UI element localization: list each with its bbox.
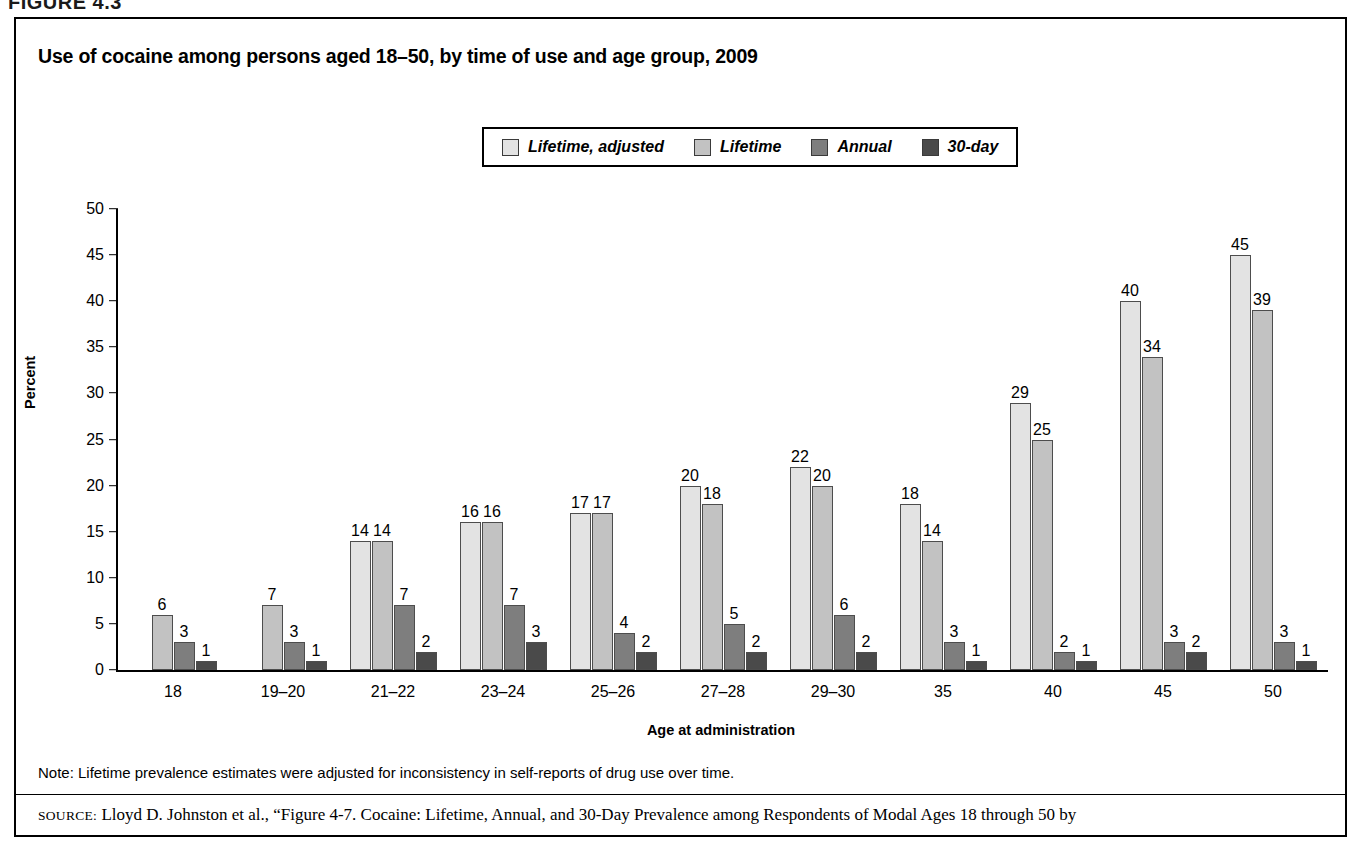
bar[interactable]: 3 <box>174 642 195 670</box>
x-axis-category-label: 23–24 <box>448 683 558 701</box>
bar-value-label: 29 <box>1011 385 1029 401</box>
bar-value-label: 5 <box>730 606 739 622</box>
bar[interactable]: 2 <box>1186 652 1207 670</box>
bar[interactable]: 2 <box>746 652 767 670</box>
bar[interactable]: 20 <box>680 486 701 670</box>
bar[interactable]: 2 <box>636 652 657 670</box>
chart-note: Note: Lifetime prevalence estimates were… <box>38 764 734 781</box>
bar[interactable]: 6 <box>152 615 173 670</box>
bar-value-label: 2 <box>422 634 431 650</box>
bar[interactable]: 3 <box>944 642 965 670</box>
bar[interactable]: 14 <box>922 541 943 670</box>
source-prefix: SOURCE: <box>38 808 97 823</box>
bar[interactable]: 14 <box>350 541 371 670</box>
bar-group: 40343245 <box>1108 209 1218 670</box>
bar-group: 16167323–24 <box>448 209 558 670</box>
bar-value-label: 25 <box>1033 422 1051 438</box>
bar-value-label: 2 <box>1060 634 1069 650</box>
bar-group: 17174225–26 <box>558 209 668 670</box>
y-axis-tick-label: 30 <box>86 384 104 402</box>
bar[interactable]: 14 <box>372 541 393 670</box>
x-axis-title: Age at administration <box>116 722 1326 738</box>
bar[interactable]: 29 <box>1010 403 1031 670</box>
y-axis-tick-label: 0 <box>95 661 104 679</box>
y-axis-tick <box>109 208 118 209</box>
bar-value-label: 14 <box>923 523 941 539</box>
y-axis-tick <box>109 669 118 670</box>
bar-value-label: 34 <box>1143 339 1161 355</box>
bar[interactable]: 1 <box>966 661 987 670</box>
y-axis-tick-label: 20 <box>86 477 104 495</box>
chart-source: SOURCE: Lloyd D. Johnston et al., “Figur… <box>38 805 1076 825</box>
bar-value-label: 17 <box>571 495 589 511</box>
bar[interactable]: 2 <box>1054 652 1075 670</box>
bar[interactable]: 18 <box>900 504 921 670</box>
bar-value-label: 16 <box>461 504 479 520</box>
y-axis-tick-label: 10 <box>86 569 104 587</box>
y-axis-tick-label: 50 <box>86 200 104 218</box>
bar-value-label: 1 <box>1082 643 1091 659</box>
bar-value-label: 1 <box>1302 643 1311 659</box>
bar-group: 14147221–22 <box>338 209 448 670</box>
bar[interactable]: 1 <box>306 661 327 670</box>
y-axis-tick <box>109 577 118 578</box>
bar[interactable]: 39 <box>1252 310 1273 670</box>
bar[interactable]: 7 <box>504 605 525 670</box>
bar-value-label: 2 <box>642 634 651 650</box>
bar[interactable]: 7 <box>262 605 283 670</box>
bar[interactable]: 16 <box>482 522 503 670</box>
x-axis-category-label: 27–28 <box>668 683 778 701</box>
bar-group: 20185227–28 <box>668 209 778 670</box>
bar-value-label: 2 <box>1192 634 1201 650</box>
source-divider <box>16 794 1345 795</box>
bar-value-label: 14 <box>373 523 391 539</box>
bar[interactable]: 6 <box>834 615 855 670</box>
bar[interactable]: 16 <box>460 522 481 670</box>
y-axis-title: Percent <box>22 356 38 409</box>
bar[interactable]: 2 <box>856 652 877 670</box>
y-axis-tick-label: 15 <box>86 523 104 541</box>
bar[interactable]: 1 <box>196 661 217 670</box>
y-axis-tick <box>109 439 118 440</box>
bar[interactable]: 2 <box>416 652 437 670</box>
bar[interactable]: 7 <box>394 605 415 670</box>
x-axis-category-label: 50 <box>1218 683 1328 701</box>
bar[interactable]: 45 <box>1230 255 1251 670</box>
bar[interactable]: 17 <box>570 513 591 670</box>
y-axis-tick <box>109 300 118 301</box>
bar-value-label: 3 <box>532 624 541 640</box>
bar[interactable]: 3 <box>284 642 305 670</box>
bar[interactable]: 5 <box>724 624 745 670</box>
bar[interactable]: 40 <box>1120 301 1141 670</box>
y-axis-tick-label: 25 <box>86 431 104 449</box>
bar[interactable]: 4 <box>614 633 635 670</box>
bar-value-label: 3 <box>1170 624 1179 640</box>
bar-value-label: 3 <box>290 624 299 640</box>
bar[interactable]: 25 <box>1032 440 1053 671</box>
bar[interactable]: 34 <box>1142 357 1163 670</box>
bar[interactable]: 18 <box>702 504 723 670</box>
bar[interactable]: 1 <box>1076 661 1097 670</box>
bar-value-label: 1 <box>202 643 211 659</box>
bar[interactable]: 3 <box>1274 642 1295 670</box>
plot-area: 051015202530354045506311873119–201414722… <box>116 209 1328 672</box>
bar-value-label: 1 <box>312 643 321 659</box>
bar[interactable]: 3 <box>1164 642 1185 670</box>
bar-value-label: 7 <box>400 587 409 603</box>
bar-value-label: 45 <box>1231 237 1249 253</box>
y-axis-tick-label: 5 <box>95 615 104 633</box>
bar-value-label: 6 <box>158 597 167 613</box>
bar-group: 29252140 <box>998 209 1108 670</box>
y-axis-tick-label: 35 <box>86 338 104 356</box>
y-axis-tick <box>109 393 118 394</box>
bar[interactable]: 22 <box>790 467 811 670</box>
x-axis-category-label: 21–22 <box>338 683 448 701</box>
bar[interactable]: 17 <box>592 513 613 670</box>
plot-wrapper: Percent 051015202530354045506311873119–2… <box>16 19 1345 835</box>
bar-group: 63118 <box>118 209 228 670</box>
bar[interactable]: 20 <box>812 486 833 670</box>
bar-value-label: 40 <box>1121 283 1139 299</box>
bar[interactable]: 3 <box>526 642 547 670</box>
bar[interactable]: 1 <box>1296 661 1317 670</box>
bar-value-label: 4 <box>620 615 629 631</box>
